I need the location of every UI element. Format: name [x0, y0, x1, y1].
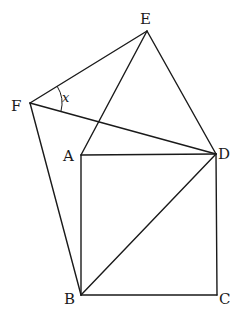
segment-BD: [81, 154, 216, 295]
point-label-D: D: [218, 145, 230, 163]
segment-FB: [30, 103, 81, 295]
segment-FD: [30, 103, 216, 154]
segment-AD: [81, 154, 216, 155]
segment-FE: [30, 31, 147, 103]
segment-ED: [147, 31, 216, 154]
point-label-F: F: [11, 97, 21, 115]
point-label-E: E: [140, 10, 151, 28]
point-label-B: B: [64, 290, 75, 308]
segment-AE: [81, 31, 147, 155]
point-label-A: A: [62, 147, 74, 165]
segment-CD: [216, 154, 217, 295]
geometry-diagram: x E F A D B C: [0, 0, 248, 321]
angle-label-x: x: [62, 90, 70, 105]
point-label-C: C: [219, 290, 230, 308]
